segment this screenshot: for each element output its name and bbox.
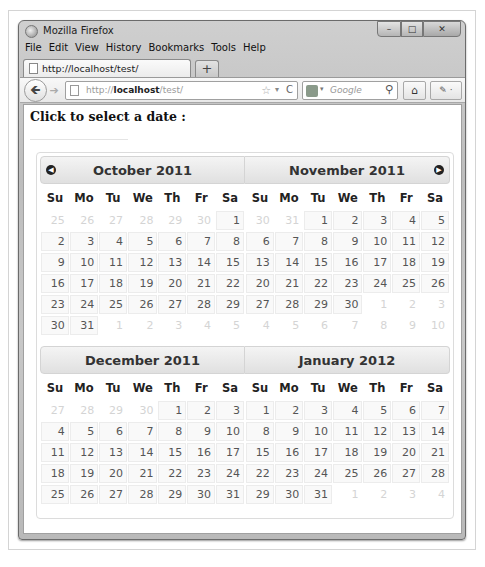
day-link[interactable]: 29 — [246, 485, 274, 504]
day-link[interactable]: 29 — [158, 485, 186, 504]
day-link[interactable]: 28 — [128, 485, 157, 504]
day-link[interactable]: 20 — [99, 464, 127, 483]
search-input[interactable]: Google — [330, 85, 362, 95]
day-link[interactable]: 10 — [304, 422, 332, 441]
day-link[interactable]: 14 — [187, 253, 215, 272]
back-arrow-icon[interactable]: 🡸 — [24, 79, 47, 102]
day-link[interactable]: 11 — [392, 232, 420, 251]
day-link[interactable]: 15 — [158, 443, 186, 462]
day-link[interactable]: 31 — [304, 485, 332, 504]
day-link[interactable]: 4 — [392, 211, 420, 230]
day-link[interactable]: 7 — [187, 232, 215, 251]
day-link[interactable]: 6 — [392, 401, 420, 420]
day-link[interactable]: 3 — [363, 211, 391, 230]
day-link[interactable]: 7 — [421, 401, 449, 420]
addon-button[interactable]: ✎ · — [430, 81, 462, 100]
menu-bookmarks[interactable]: Bookmarks — [148, 42, 204, 58]
day-link[interactable]: 27 — [99, 485, 127, 504]
day-link[interactable]: 1 — [216, 211, 244, 230]
day-link[interactable]: 8 — [216, 232, 244, 251]
day-link[interactable]: 25 — [99, 295, 127, 314]
day-link[interactable]: 15 — [304, 253, 332, 272]
day-link[interactable]: 21 — [421, 443, 449, 462]
day-link[interactable]: 30 — [333, 295, 362, 314]
day-link[interactable]: 13 — [392, 422, 420, 441]
day-link[interactable]: 3 — [70, 232, 98, 251]
new-tab-button[interactable]: + — [195, 60, 219, 77]
day-link[interactable]: 15 — [216, 253, 244, 272]
day-link[interactable]: 16 — [187, 443, 215, 462]
day-link[interactable]: 6 — [246, 232, 274, 251]
day-link[interactable]: 18 — [41, 464, 69, 483]
day-link[interactable]: 26 — [70, 485, 98, 504]
day-link[interactable]: 29 — [216, 295, 244, 314]
day-link[interactable]: 17 — [304, 443, 332, 462]
day-link[interactable]: 22 — [246, 464, 274, 483]
forward-arrow-icon[interactable]: ➔ — [47, 83, 61, 98]
menu-history[interactable]: History — [106, 42, 142, 58]
day-link[interactable]: 7 — [275, 232, 303, 251]
day-link[interactable]: 4 — [333, 401, 362, 420]
next-month-icon[interactable]: ▶ — [434, 165, 444, 175]
day-link[interactable]: 17 — [216, 443, 244, 462]
day-link[interactable]: 16 — [275, 443, 303, 462]
day-link[interactable]: 2 — [333, 211, 362, 230]
day-link[interactable]: 22 — [304, 274, 332, 293]
menu-file[interactable]: File — [25, 42, 42, 58]
day-link[interactable]: 31 — [216, 485, 244, 504]
day-link[interactable]: 27 — [392, 464, 420, 483]
day-link[interactable]: 23 — [333, 274, 362, 293]
day-link[interactable]: 11 — [333, 422, 362, 441]
day-link[interactable]: 19 — [363, 443, 391, 462]
day-link[interactable]: 20 — [158, 274, 186, 293]
day-link[interactable]: 12 — [70, 443, 98, 462]
day-link[interactable]: 19 — [70, 464, 98, 483]
day-link[interactable]: 14 — [128, 443, 157, 462]
title-bar[interactable]: Mozilla Firefox – □ ✕ — [19, 21, 465, 41]
day-link[interactable]: 9 — [275, 422, 303, 441]
menu-view[interactable]: View — [75, 42, 99, 58]
menu-help[interactable]: Help — [243, 42, 266, 58]
home-icon[interactable]: ⌂ — [403, 81, 426, 100]
day-link[interactable]: 8 — [246, 422, 274, 441]
day-link[interactable]: 6 — [99, 422, 127, 441]
day-link[interactable]: 11 — [41, 443, 69, 462]
day-link[interactable]: 9 — [187, 422, 215, 441]
day-link[interactable]: 25 — [41, 485, 69, 504]
day-link[interactable]: 5 — [421, 211, 449, 230]
day-link[interactable]: 20 — [392, 443, 420, 462]
day-link[interactable]: 9 — [333, 232, 362, 251]
close-button[interactable]: ✕ — [423, 21, 461, 37]
menu-edit[interactable]: Edit — [49, 42, 68, 58]
day-link[interactable]: 21 — [275, 274, 303, 293]
day-link[interactable]: 26 — [363, 464, 391, 483]
site-identity-icon[interactable] — [70, 85, 79, 96]
day-link[interactable]: 10 — [363, 232, 391, 251]
day-link[interactable]: 2 — [275, 401, 303, 420]
day-link[interactable]: 26 — [128, 295, 157, 314]
day-link[interactable]: 2 — [41, 232, 69, 251]
day-link[interactable]: 9 — [41, 253, 69, 272]
day-link[interactable]: 8 — [304, 232, 332, 251]
day-link[interactable]: 3 — [304, 401, 332, 420]
day-link[interactable]: 24 — [304, 464, 332, 483]
day-link[interactable]: 21 — [187, 274, 215, 293]
day-link[interactable]: 19 — [128, 274, 157, 293]
day-link[interactable]: 3 — [216, 401, 244, 420]
day-link[interactable]: 12 — [363, 422, 391, 441]
day-link[interactable]: 1 — [246, 401, 274, 420]
day-link[interactable]: 20 — [246, 274, 274, 293]
day-link[interactable]: 4 — [99, 232, 127, 251]
day-link[interactable]: 5 — [128, 232, 157, 251]
day-link[interactable]: 18 — [99, 274, 127, 293]
day-link[interactable]: 30 — [275, 485, 303, 504]
day-link[interactable]: 23 — [41, 295, 69, 314]
day-link[interactable]: 17 — [363, 253, 391, 272]
day-link[interactable]: 10 — [70, 253, 98, 272]
bookmark-star-icon[interactable]: ☆ — [261, 84, 271, 97]
day-link[interactable]: 26 — [421, 274, 449, 293]
day-link[interactable]: 6 — [158, 232, 186, 251]
day-link[interactable]: 12 — [128, 253, 157, 272]
menu-tools[interactable]: Tools — [211, 42, 236, 58]
day-link[interactable]: 14 — [275, 253, 303, 272]
